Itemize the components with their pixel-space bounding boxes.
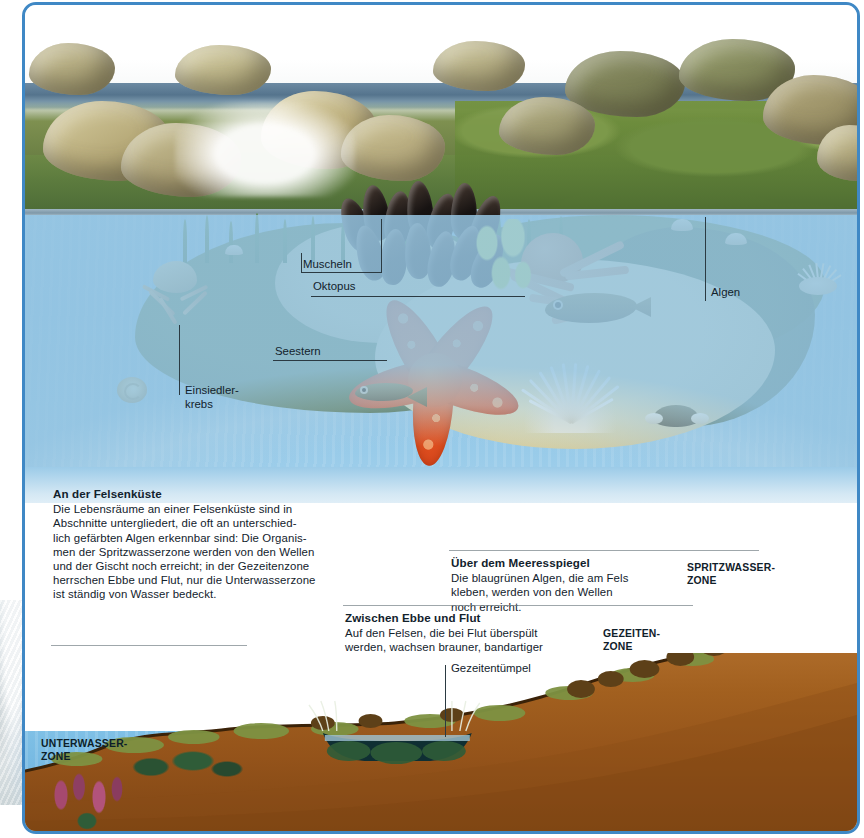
zone-label-gezeitenzone: GEZEITEN- ZONE xyxy=(603,627,660,653)
callout-label-line2: krebs xyxy=(185,397,239,411)
leader-line-muscheln-v xyxy=(381,219,382,273)
text-block-heading: Zwischen Ebbe und Flut xyxy=(345,611,595,625)
divider-above-zwischen-ebbe-und-flut xyxy=(343,605,693,606)
text-block-heading: An der Felsenküste xyxy=(53,487,343,501)
zone-label-spritzwasserzone: SPRITZWASSER- ZONE xyxy=(687,561,775,587)
leader-line-seestern xyxy=(273,360,387,361)
text-block-line: und der Gischt noch erreicht; in der Gez… xyxy=(53,560,309,572)
callout-label: Algen xyxy=(711,286,740,298)
zone-label-line1: SPRITZWASSER- xyxy=(687,562,775,573)
coast-cross-section: Gezeitentümpel UNTERWASSER- ZONE xyxy=(25,653,857,834)
text-block-line: werden, wachsen brauner, bandartiger xyxy=(345,641,543,653)
boulder xyxy=(499,97,595,155)
leader-line-gezeitentuempel xyxy=(445,665,446,737)
leader-line-muscheln xyxy=(301,253,302,273)
tide-pool-surface xyxy=(325,735,470,741)
callout-label: Oktopus xyxy=(313,280,355,292)
callout-label-line1: Einsiedler- xyxy=(185,383,239,397)
text-block-line: Auf den Felsen, die bei Flut überspült xyxy=(345,627,538,639)
zone-label-line2: ZONE xyxy=(603,641,633,652)
illustration-frame: Muscheln Oktopus Seestern Einsiedler- kr… xyxy=(22,2,860,834)
leader-line-muscheln-h xyxy=(301,272,381,273)
leader-line-algen xyxy=(705,217,706,301)
text-block-an-der-felsenkueste: An der Felsenküste Die Lebensräume an ei… xyxy=(53,487,343,602)
callout-label: Muscheln xyxy=(303,258,352,270)
text-block-heading: Über dem Meeresspiegel xyxy=(451,556,681,570)
boulder xyxy=(175,45,271,95)
text-block-line: ist ständig von Wasser bedeckt. xyxy=(53,588,217,600)
text-block-line: Die blaugrünen Algen, die am Fels xyxy=(451,572,628,584)
figure-page: Muscheln Oktopus Seestern Einsiedler- kr… xyxy=(0,0,864,838)
divider-above-unter-dem-meeresspiegel xyxy=(51,645,247,646)
text-block-line: Abschnitte untergliedert, die oft an unt… xyxy=(53,517,297,529)
zone-label-line1: GEZEITEN- xyxy=(603,628,660,639)
text-block-line: Die Lebensräume an einer Felsenküste sin… xyxy=(53,503,292,515)
callout-label: Gezeitentümpel xyxy=(451,662,531,674)
illustration-stage: Muscheln Oktopus Seestern Einsiedler- kr… xyxy=(25,5,857,831)
zone-label-line2: ZONE xyxy=(687,575,717,586)
tide-pool-weed xyxy=(327,741,466,764)
water-haze xyxy=(25,215,860,467)
callout-einsiedlerkrebs: Einsiedler- krebs xyxy=(185,383,239,411)
text-block-line: herrschen Ebbe und Flut, nur die Unterwa… xyxy=(53,574,316,586)
text-block-line: lich gefärbten Algen erkennbar sind: Die… xyxy=(53,532,307,544)
sea-spray xyxy=(175,101,355,197)
leader-line-oktopus xyxy=(311,296,525,297)
boulder xyxy=(341,115,445,181)
zone-label-line2: ZONE xyxy=(41,751,71,762)
zone-label-unterwasserzone: UNTERWASSER- ZONE xyxy=(41,737,128,763)
leader-line-einsiedlerkrebs xyxy=(179,325,180,395)
boulder xyxy=(433,41,525,91)
text-block-line: kleben, werden von den Wellen xyxy=(451,586,613,598)
boulder xyxy=(29,43,115,95)
divider-above-ueber-dem-meeresspiegel xyxy=(449,550,759,551)
text-block-line: men der Spritzwasserzone werden von den … xyxy=(53,546,314,558)
kelp-cluster xyxy=(121,723,251,801)
zone-label-line1: UNTERWASSER- xyxy=(41,738,128,749)
callout-label: Seestern xyxy=(275,345,321,357)
